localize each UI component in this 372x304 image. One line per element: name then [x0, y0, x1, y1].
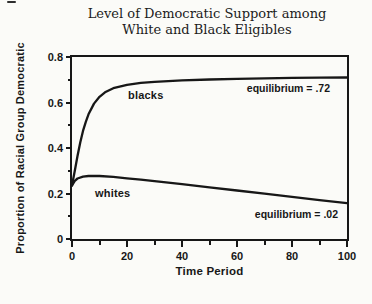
y-tick-label: 0 — [39, 233, 63, 246]
equilibrium-annotation-whites: equilibrium = .02 — [255, 208, 338, 220]
x-tick-label: 100 — [333, 250, 361, 263]
x-tick-label: 80 — [278, 250, 306, 263]
x-tick-minor — [319, 241, 321, 245]
x-tick-major — [126, 241, 128, 247]
chart-title-line1: Level of Democratic Support among — [42, 6, 372, 22]
figure-page: Level of Democratic Support among White … — [0, 0, 372, 304]
y-tick-minor — [68, 124, 72, 126]
y-axis-label: Proportion of Racial Group Democratic — [14, 42, 26, 254]
y-tick-label: 0.2 — [39, 188, 63, 201]
y-tick-minor — [68, 170, 72, 172]
x-tick-minor — [154, 241, 156, 245]
y-axis-ticks: 00.20.40.60.8 — [38, 57, 72, 239]
x-axis-label: Time Period — [70, 265, 349, 277]
y-tick-label: 0.4 — [39, 142, 63, 155]
x-tick-minor — [264, 241, 266, 245]
y-tick-major — [66, 56, 72, 58]
scan-artifact-mark — [7, 1, 16, 3]
y-tick-minor — [68, 215, 72, 217]
curve-label-blacks: blacks — [128, 89, 163, 101]
y-tick-major — [66, 102, 72, 104]
x-tick-label: 40 — [168, 250, 196, 263]
y-tick-major — [66, 147, 72, 149]
chart-title-line2: White and Black Eligibles — [42, 22, 372, 38]
x-tick-major — [291, 241, 293, 247]
x-tick-major — [71, 241, 73, 247]
y-tick-label: 0.8 — [39, 51, 63, 64]
x-tick-major — [346, 241, 348, 247]
x-tick-major — [181, 241, 183, 247]
y-tick-label: 0.6 — [39, 97, 63, 110]
y-tick-major — [66, 193, 72, 195]
y-tick-minor — [68, 79, 72, 81]
x-tick-minor — [209, 241, 211, 245]
x-tick-label: 60 — [223, 250, 251, 263]
equilibrium-annotation-blacks: equilibrium = .72 — [247, 82, 330, 94]
x-tick-minor — [99, 241, 101, 245]
x-tick-major — [236, 241, 238, 247]
plot-area: blacks whites equilibrium = .72 equilibr… — [70, 55, 349, 241]
curve-label-whites: whites — [95, 187, 130, 199]
x-tick-label: 20 — [113, 250, 141, 263]
x-tick-label: 0 — [58, 250, 86, 263]
y-tick-major — [66, 238, 72, 240]
chart-title: Level of Democratic Support among White … — [42, 6, 372, 38]
